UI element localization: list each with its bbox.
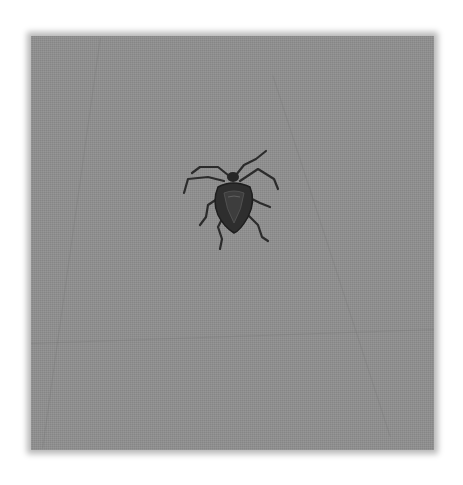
surface-crease [272, 75, 390, 437]
surface-crease [42, 38, 101, 448]
photo-surface [31, 36, 434, 450]
bug-icon [178, 145, 288, 250]
surface-crease [31, 329, 434, 344]
